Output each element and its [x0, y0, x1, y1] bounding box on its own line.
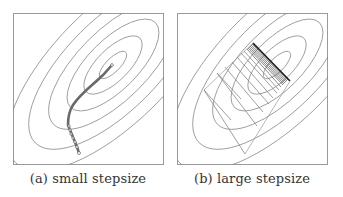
panel-small-stepsize — [13, 13, 164, 165]
caption-large-stepsize: (b) large stepsize — [172, 171, 332, 186]
contour-plot-large-stepsize — [177, 13, 328, 165]
panel-large-stepsize — [177, 13, 328, 165]
caption-small-stepsize: (a) small stepsize — [8, 171, 168, 186]
contour-plot-small-stepsize — [13, 13, 164, 165]
